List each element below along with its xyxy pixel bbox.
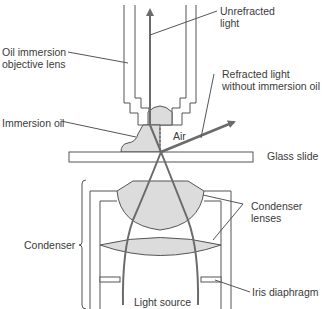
label-condenser-lenses: Condenser lenses	[251, 200, 302, 224]
label-oil-immersion-objective: Oil immersion objective lens	[2, 46, 66, 70]
refracted-light-ray	[161, 122, 234, 152]
objective-front-lens	[148, 106, 172, 125]
upper-condenser-lens	[117, 181, 204, 230]
label-unrefracted-light: Unrefracted light	[220, 5, 275, 29]
diagram-canvas: Unrefracted light Oil immersion objectiv…	[0, 0, 322, 309]
label-refracted-light: Refracted light without immersion oil	[222, 68, 320, 92]
condenser-bracket	[79, 180, 86, 309]
label-iris-diaphragm: Iris diaphragm	[252, 286, 319, 298]
lower-condenser-lens	[100, 238, 221, 256]
label-glass-slide: Glass slide	[267, 150, 318, 162]
label-air: Air	[173, 130, 186, 142]
label-condenser: Condenser	[24, 239, 75, 251]
iris-diaphragm-left	[100, 277, 120, 282]
immersion-oil-drop	[121, 125, 160, 152]
label-immersion-oil: Immersion oil	[2, 117, 64, 129]
label-light-source: Light source	[134, 296, 191, 308]
